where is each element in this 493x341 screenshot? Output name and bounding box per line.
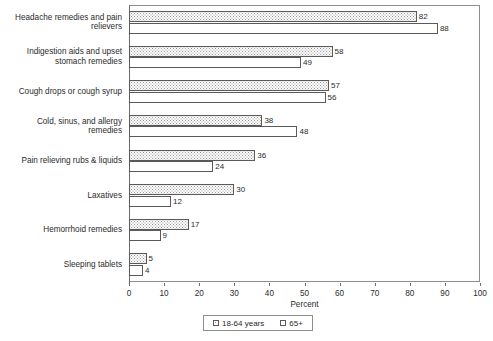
bar-value-label: 24 [215, 161, 224, 172]
bar-value-label: 4 [145, 265, 149, 276]
bar-group: 8288 [129, 11, 480, 34]
legend-swatch-icon-series-2 [280, 320, 286, 326]
bar-value-label: 12 [173, 196, 182, 207]
bar-value-label: 82 [419, 11, 428, 22]
x-axis-tick-label: 70 [360, 289, 390, 298]
bar-group: 5849 [129, 46, 480, 69]
x-axis-tick [410, 283, 411, 286]
category-label: Pain relieving rubs & liquids [0, 156, 122, 166]
category-label: Laxatives [0, 191, 122, 201]
x-axis-tick [199, 283, 200, 286]
bar-series-1 [129, 219, 189, 230]
x-axis-tick [340, 283, 341, 286]
bar-value-label: 48 [299, 126, 308, 137]
chart-legend: 18-64 years 65+ [203, 315, 313, 331]
category-label: Cold, sinus, and allergyremedies [0, 117, 122, 136]
x-axis-tick-label: 50 [290, 289, 320, 298]
bar-series-2 [129, 92, 326, 103]
x-axis-tick-label: 40 [254, 289, 284, 298]
bar-series-2 [129, 265, 143, 276]
category-label: Sleeping tablets [0, 260, 122, 270]
x-axis-tick [375, 283, 376, 286]
category-label: Indigestion aids and upsetstomach remedi… [0, 47, 122, 66]
bar-value-label: 88 [440, 23, 449, 34]
bar-group: 179 [129, 219, 480, 242]
bar-chart: Headache remedies and painrelieversIndig… [0, 0, 493, 341]
bar-value-label: 58 [335, 46, 344, 57]
bar-series-1 [129, 115, 262, 126]
category-label: Hemorrhoid remedies [0, 225, 122, 235]
bar-series-2 [129, 230, 161, 241]
bar-group: 54 [129, 253, 480, 276]
bar-series-2 [129, 161, 213, 172]
x-axis-tick [234, 283, 235, 286]
x-axis-tick [305, 283, 306, 286]
bar-group: 3848 [129, 115, 480, 138]
x-axis-title: Percent [129, 300, 480, 309]
bar-group: 3624 [129, 150, 480, 173]
x-axis-tick [129, 283, 130, 286]
legend-item-series-2: 65+ [280, 319, 303, 328]
bar-value-label: 30 [236, 184, 245, 195]
bar-value-label: 17 [191, 219, 200, 230]
bar-series-1 [129, 150, 255, 161]
bar-value-label: 36 [257, 150, 266, 161]
category-axis-labels: Headache remedies and painrelieversIndig… [0, 0, 126, 282]
bar-series-1 [129, 80, 329, 91]
x-axis-tick [269, 283, 270, 286]
legend-label-series-2: 65+ [289, 319, 303, 328]
bar-series-2 [129, 126, 297, 137]
bar-series-1 [129, 253, 147, 264]
x-axis-tick [164, 283, 165, 286]
bar-value-label: 56 [328, 92, 337, 103]
x-axis-tick [445, 283, 446, 286]
x-axis-tick-label: 10 [149, 289, 179, 298]
x-axis-tick-label: 100 [465, 289, 493, 298]
bar-series-1 [129, 11, 417, 22]
x-axis-tick-label: 30 [219, 289, 249, 298]
bar-group: 5756 [129, 80, 480, 103]
x-axis-tick-label: 20 [184, 289, 214, 298]
legend-swatch-icon-series-1 [213, 320, 219, 326]
bar-value-label: 57 [331, 80, 340, 91]
bar-value-label: 49 [303, 57, 312, 68]
legend-label-series-1: 18-64 years [222, 319, 264, 328]
category-label: Headache remedies and painrelievers [0, 13, 122, 32]
x-axis-tick-label: 60 [325, 289, 355, 298]
bar-series-1 [129, 46, 333, 57]
bar-value-label: 5 [149, 253, 153, 264]
x-axis-tick-label: 90 [430, 289, 460, 298]
bar-value-label: 9 [163, 230, 167, 241]
legend-item-series-1: 18-64 years [213, 319, 264, 328]
bar-series-2 [129, 196, 171, 207]
x-axis-tick-label: 80 [395, 289, 425, 298]
category-label: Cough drops or cough syrup [0, 87, 122, 97]
bar-value-label: 38 [264, 115, 273, 126]
x-axis-tick [480, 283, 481, 286]
bar-group: 3012 [129, 184, 480, 207]
bar-rows: 82885849575638483624301217954 [129, 5, 480, 282]
bar-series-2 [129, 57, 301, 68]
bar-series-2 [129, 23, 438, 34]
x-axis-tick-label: 0 [114, 289, 144, 298]
bar-series-1 [129, 184, 234, 195]
